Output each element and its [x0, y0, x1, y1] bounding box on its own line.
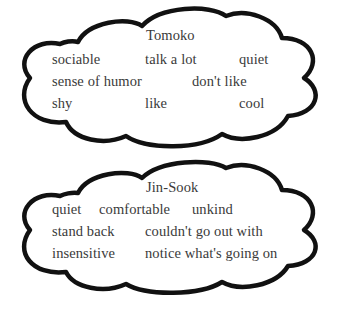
word-sense-of-humor: sense of humor [52, 74, 142, 89]
cloud-outlines [0, 0, 344, 313]
word-talk-a-lot: talk a lot [145, 52, 197, 67]
word-sociable: sociable [52, 52, 100, 67]
word-shy: shy [52, 96, 72, 111]
word-notice-whats-going-on: notice what's going on [145, 246, 277, 261]
word-cloud-diagram: Tomoko sociable talk a lot quiet sense o… [0, 0, 344, 313]
word-quiet: quiet [52, 202, 82, 217]
cloud-title-tomoko: Tomoko [146, 28, 195, 43]
word-like: like [145, 96, 167, 111]
cloud-title-jinsook: Jin-Sook [146, 180, 198, 195]
word-insensitive: insensitive [52, 246, 115, 261]
word-quiet: quiet [239, 52, 269, 67]
word-unkind: unkind [192, 202, 233, 217]
word-dont-like: don't like [192, 74, 247, 89]
word-stand-back: stand back [52, 224, 115, 239]
word-comfortable: comfortable [99, 202, 170, 217]
word-couldnt-go-out-with: couldn't go out with [145, 224, 263, 239]
word-cool: cool [239, 96, 264, 111]
